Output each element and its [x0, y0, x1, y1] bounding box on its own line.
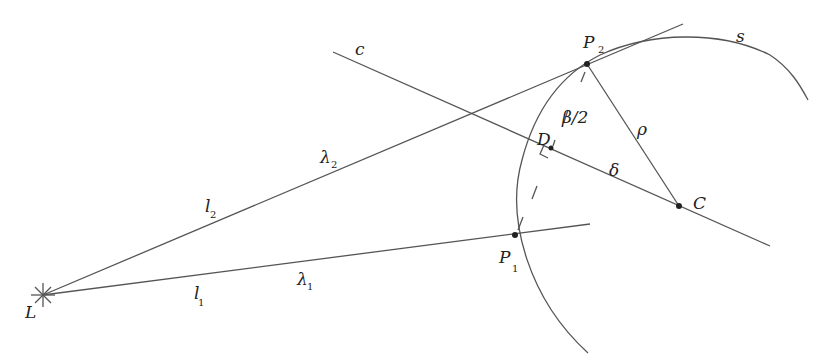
diagram-canvas: c s P 2 β/2 ρ D δ C P 1 λ 2 l 2 λ 1 l 1 …: [0, 0, 823, 361]
label-p1: P: [498, 247, 511, 267]
arc-s: [517, 37, 808, 353]
label-rho: ρ: [636, 119, 647, 139]
label-beta-half: β/2: [561, 107, 588, 127]
label-lambda2-sub: 2: [331, 159, 337, 170]
chord-dash: [532, 186, 537, 199]
point-p1: [512, 232, 518, 238]
label-d: D: [536, 129, 551, 149]
chord-dash: [581, 72, 585, 82]
label-l2-sub: 2: [210, 209, 216, 220]
label-p1-sub: 1: [512, 263, 518, 274]
label-lambda2: λ: [319, 147, 331, 167]
label-delta: δ: [609, 160, 619, 180]
label-l1-sub: 1: [198, 297, 204, 308]
label-s: s: [736, 26, 745, 46]
point-p2: [584, 61, 590, 67]
label-p2: P: [582, 32, 595, 52]
chord-dash: [553, 140, 555, 146]
point-c: [676, 203, 682, 209]
label-lambda1-sub: 1: [307, 281, 313, 292]
label-lambda1: λ: [296, 269, 308, 289]
label-l-source: L: [24, 302, 36, 322]
label-p2-sub: 2: [598, 44, 604, 55]
label-c: c: [355, 39, 365, 59]
label-c-point: C: [693, 193, 706, 213]
